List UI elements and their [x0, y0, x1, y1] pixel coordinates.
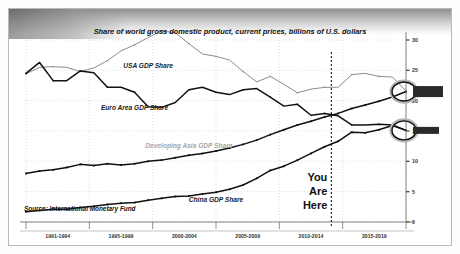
chart-source-note: Source: International Monetary Fund — [24, 205, 137, 213]
y-axis-tick-label: 10 — [412, 158, 418, 164]
redacted-value-label-1 — [413, 127, 439, 134]
series-line-1 — [26, 62, 406, 130]
x-axis-tick-label: 2005-2009 — [235, 233, 260, 239]
series-label-1: Euro Area GDP Share — [101, 104, 169, 111]
series-label-0: USA GDP Share — [123, 62, 173, 69]
you-are-here-line-0: You — [307, 171, 327, 183]
x-axis-tick-label: 1991-1994 — [45, 233, 70, 239]
grid-layer — [22, 34, 406, 222]
y-axis-tick-label: 30 — [412, 37, 418, 43]
x-axis-tick-label: 2000-2004 — [172, 233, 197, 239]
x-axis-tick-label: 1995-1999 — [109, 233, 134, 239]
series-label-3: China GDP Share — [189, 196, 244, 203]
you-are-here-line-1: Are — [309, 185, 327, 197]
y-axis-tick-label: 25 — [412, 67, 418, 73]
y-axis-tick-label: 5 — [412, 189, 415, 195]
annotation-layer: YouAreHere — [303, 52, 443, 226]
x-axis-tick-label: 2010-2014 — [299, 233, 324, 239]
chart-title: Share of world gross domestic product, c… — [94, 27, 367, 36]
you-are-here-line-2: Here — [303, 199, 327, 211]
redacted-value-label-0 — [413, 86, 443, 97]
gdp-share-line-chart: USA GDP ShareEuro Area GDP ShareDevelopi… — [8, 8, 452, 246]
series-label-2: Developing Asia GDP Share — [145, 142, 232, 150]
x-axis-tick-label: 2015-2019 — [362, 233, 387, 239]
chart-screenshot: USA GDP ShareEuro Area GDP ShareDevelopi… — [0, 0, 460, 254]
